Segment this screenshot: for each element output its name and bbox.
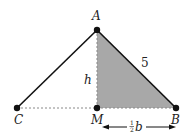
- svg-text:2: 2: [130, 126, 134, 133]
- point-A: [94, 27, 100, 33]
- triangle-diagram: A h 5 C M B 1 2 b: [0, 0, 195, 140]
- point-C: [14, 105, 20, 111]
- label-B: B: [170, 113, 180, 127]
- side-CA: [17, 30, 97, 108]
- label-A: A: [91, 9, 101, 23]
- svg-text:b: b: [135, 120, 143, 134]
- label-h: h: [84, 73, 92, 87]
- svg-text:1: 1: [130, 119, 134, 126]
- label-5: 5: [141, 56, 149, 70]
- point-M: [94, 105, 100, 111]
- label-half-b: 1 2 b: [130, 119, 143, 134]
- point-B: [173, 105, 179, 111]
- label-M: M: [90, 113, 104, 127]
- label-C: C: [14, 113, 23, 127]
